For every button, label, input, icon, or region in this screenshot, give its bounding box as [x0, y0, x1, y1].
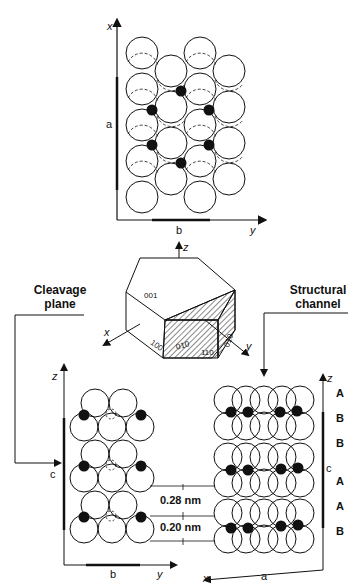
- crystal-axis-y-label: y: [246, 340, 252, 352]
- top-panel: [117, 20, 265, 220]
- left-axis-z-label: z: [52, 370, 58, 382]
- crystal-axis-x-label: x: [104, 326, 110, 338]
- crystal-axis-z-label: z: [183, 241, 189, 253]
- distance-028-label: 0.28 nm: [159, 494, 202, 506]
- right-axis-x-label: x: [203, 572, 209, 584]
- face-001-label: 001: [144, 291, 157, 300]
- left-axis-y-label: y: [157, 568, 163, 580]
- right-axis-z-label: z: [327, 372, 333, 384]
- stacking-layer-1: A: [336, 387, 344, 399]
- stacking-layer-3: B: [336, 437, 344, 449]
- stacking-layer-5: A: [336, 500, 344, 512]
- top-dim-a-label: a: [106, 118, 112, 130]
- stacking-layer-6: B: [336, 525, 344, 537]
- channel-line2: channel: [283, 297, 353, 311]
- right-dim-c-label: c: [326, 462, 332, 474]
- left-panel: [64, 365, 176, 565]
- channel-line1: Structural: [283, 283, 353, 297]
- structural-channel-callout: Structural channel: [283, 283, 353, 311]
- cleavage-line1: Cleavage: [30, 283, 90, 297]
- cleavage-plane-callout: Cleavage plane: [30, 283, 90, 311]
- top-axis-y-label: y: [250, 224, 256, 236]
- stacking-layer-4: A: [336, 475, 344, 487]
- cleavage-line2: plane: [30, 297, 90, 311]
- right-panel: [205, 375, 323, 580]
- left-dim-c-label: c: [50, 468, 56, 480]
- left-dim-b-label: b: [110, 568, 116, 580]
- right-dim-a-label: a: [261, 570, 267, 582]
- face-110-label: 110: [201, 348, 214, 357]
- distance-020-label: 0.20 nm: [159, 521, 202, 533]
- top-axis-x-label: x: [107, 20, 113, 32]
- stacking-layer-2: B: [336, 412, 344, 424]
- top-dim-b-label: b: [176, 224, 182, 236]
